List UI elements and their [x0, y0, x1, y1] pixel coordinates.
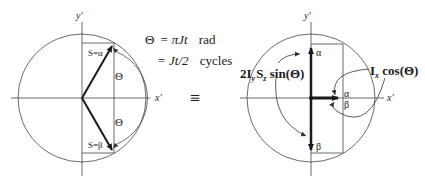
left-y-axis-label: y'	[75, 10, 83, 21]
right-y-axis-label: y'	[303, 10, 311, 21]
theta-rad-expression: = πJt	[160, 32, 188, 47]
theta-symbol: Θ	[145, 32, 154, 47]
svg-text:Θ = πJt rad: Θ = πJt rad	[145, 32, 216, 47]
left-vector-diagram: y' S=α S=β Θ Θ x'	[11, 10, 162, 176]
sin-term-pointer-down	[276, 78, 306, 136]
magnetization-diagram: y' S=α S=β Θ Θ x' Θ = πJt rad = Jt/2 cyc…	[0, 0, 425, 177]
cycles-unit: cycles	[200, 53, 232, 68]
beta-state-label: S=β	[88, 140, 103, 150]
equivalence-symbol: ≡	[190, 88, 200, 108]
svg-text:= Jt/2 cycles: = Jt/2 cycles	[157, 53, 232, 68]
theta-bottom-label: Θ	[115, 116, 123, 128]
x-beta-label: β	[344, 99, 349, 110]
theta-equations: Θ = πJt rad = Jt/2 cycles	[145, 32, 232, 68]
rad-unit: rad	[199, 32, 216, 47]
sin-term-label: 2IySz sin(Θ)	[240, 66, 304, 83]
alpha-state-label: S=α	[88, 48, 103, 58]
right-x-axis-label: x'	[386, 92, 394, 103]
cos-term-pointer-alpha	[334, 69, 369, 95]
x-alpha-label: α	[344, 88, 350, 99]
sin-term-pointer-up	[278, 54, 300, 63]
down-beta-label: β	[316, 141, 321, 152]
theta-top-label: Θ	[115, 70, 123, 82]
left-x-axis-label: x'	[154, 92, 162, 103]
cos-term-pointer-beta	[333, 78, 385, 117]
theta-cycles-expression: = Jt/2	[157, 53, 189, 68]
cos-term-label: Ix cos(Θ)	[370, 63, 418, 80]
right-vector-diagram: y' α β α β x' 2IySz sin(Θ) Ix cos(Θ)	[240, 10, 418, 176]
up-alpha-label: α	[316, 47, 322, 58]
